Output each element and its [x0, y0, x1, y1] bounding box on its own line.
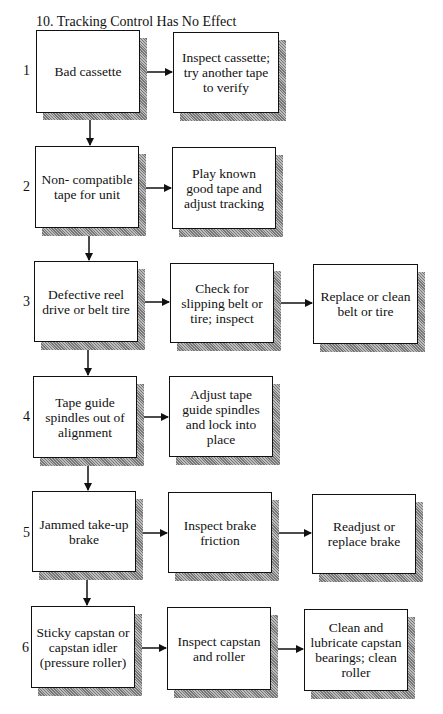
action-box: Inspect cassette; try another tape to ve… — [173, 32, 279, 113]
action-box: Play known good tape and adjust tracking — [172, 147, 276, 229]
row-number: 2 — [16, 179, 30, 195]
action-box: Readjust or replace brake — [312, 494, 416, 574]
action-box: Inspect capstan and roller — [167, 607, 271, 690]
cause-box: Non- compatible tape for unit — [35, 146, 139, 228]
action-box: Check for slipping belt or tire; inspect — [170, 263, 274, 343]
row-number: 4 — [16, 409, 30, 425]
cause-box: Tape guide spindles out of alignment — [33, 376, 137, 458]
cause-box: Defective reel drive or belt tire — [34, 261, 138, 342]
cause-box: Jammed take-up brake — [32, 491, 136, 572]
action-box: Replace or clean belt or tire — [313, 264, 418, 344]
action-box: Inspect brake friction — [168, 492, 272, 573]
row-number: 3 — [16, 294, 30, 310]
action-box: Clean and lubricate capstan bearings; cl… — [304, 609, 408, 691]
row-number: 5 — [16, 525, 30, 541]
action-box: Adjust tape guide spindles and lock into… — [169, 376, 273, 457]
row-number: 1 — [16, 63, 30, 79]
row-number: 6 — [15, 640, 29, 656]
cause-box: Sticky capstan or capstan idler (pressur… — [31, 606, 135, 688]
cause-box: Bad cassette — [36, 30, 140, 113]
